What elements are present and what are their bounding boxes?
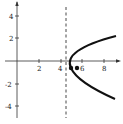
x-tick-label: 6 <box>80 65 85 73</box>
x-tick-label: 4 <box>58 65 63 73</box>
y-tick-label: -2 <box>5 81 12 89</box>
y-tick-label: -4 <box>5 103 12 111</box>
y-tick-label: 2 <box>9 35 13 43</box>
x-tick-label: 2 <box>37 65 41 73</box>
vertex-point <box>69 66 73 70</box>
parabola-chart: 2 4 6 8 4 2 -2 -4 <box>0 0 123 124</box>
x-tick-label: 8 <box>102 65 106 73</box>
y-tick-label: 4 <box>9 13 14 21</box>
y-axis-arrow-icon <box>15 1 18 6</box>
x-axis-arrow-icon <box>116 59 121 62</box>
focus-point <box>75 66 79 70</box>
